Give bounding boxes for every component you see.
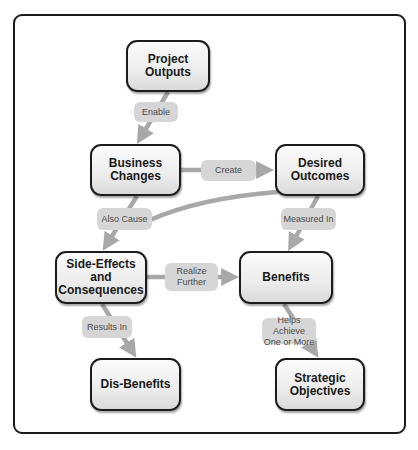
edge-label-helps-achieve: Helps Achieve One or More [262, 318, 316, 344]
node-dis-benefits: Dis-Benefits [90, 358, 181, 411]
node-benefits: Benefits [239, 251, 333, 304]
edge-label-measured-in: Measured In [281, 208, 336, 230]
edge-label-enable: Enable [134, 102, 178, 122]
edge-label-realize-further: Realize Further [165, 263, 218, 291]
edge-label-results-in: Results In [82, 316, 132, 338]
node-business-changes: Business Changes [90, 144, 181, 196]
node-desired-outcomes: Desired Outcomes [275, 144, 365, 196]
edge-label-create: Create [201, 160, 256, 181]
edge-label-also-cause: Also Cause [97, 208, 152, 230]
node-project-outputs: Project Outputs [126, 40, 210, 92]
node-strategic-objectives: Strategic Objectives [275, 358, 365, 411]
node-side-effects: Side-Effects and Consequences [55, 251, 147, 304]
edge-also-cause-curve [150, 192, 278, 220]
